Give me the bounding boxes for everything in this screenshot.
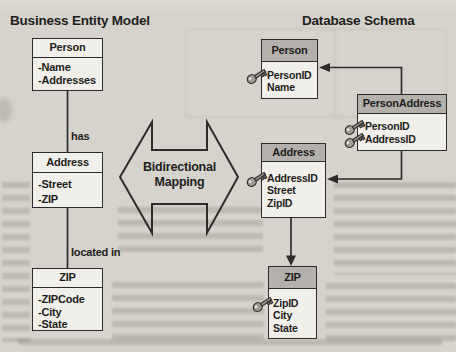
bidirectional-mapping-label: Bidirectional Mapping xyxy=(122,160,237,190)
entity-field: -City xyxy=(38,306,102,319)
table-row: City xyxy=(273,309,316,321)
key-icon xyxy=(244,65,270,85)
diagram-canvas: Business Entity Model Database Schema Bi… xyxy=(0,0,456,352)
arrowhead-to-address xyxy=(327,175,338,184)
entity-field: -Name xyxy=(38,61,102,74)
table-address-header: Address xyxy=(262,144,325,162)
column-name: ZipID xyxy=(267,197,292,209)
bidirectional-mapping-line1: Bidirectional xyxy=(122,160,237,175)
entity-address-header: Address xyxy=(33,153,102,173)
table-zip-header: ZIP xyxy=(269,267,316,289)
table-zip: ZIP ZipID City State xyxy=(268,266,317,339)
table-personaddress-header: PersonAddress xyxy=(358,95,446,114)
connector-personaddress-address xyxy=(338,150,402,179)
table-row: PersonID xyxy=(365,120,446,133)
column-name: AddressID xyxy=(267,172,318,184)
key-icon xyxy=(250,293,276,313)
relation-label-has: has xyxy=(71,130,89,142)
entity-person: Person -Name -Addresses xyxy=(32,38,103,91)
table-row: AddressID xyxy=(365,133,446,146)
background-bleed-text xyxy=(2,182,30,342)
column-name: State xyxy=(273,322,298,334)
bidirectional-mapping-line2: Mapping xyxy=(122,175,237,190)
background-bleed-text xyxy=(18,339,442,349)
table-row: Street xyxy=(267,184,325,196)
column-name: Street xyxy=(267,184,296,196)
business-entity-model-title: Business Entity Model xyxy=(10,13,150,28)
background-bleed-smudge xyxy=(0,98,12,122)
column-name: ZipID xyxy=(273,297,298,309)
table-row: Name xyxy=(267,81,317,93)
entity-field: -ZIPCode xyxy=(38,293,102,306)
background-bleed-text xyxy=(112,282,264,344)
table-row: PersonID xyxy=(267,69,317,81)
key-icon xyxy=(342,129,368,149)
entity-field: -Addresses xyxy=(38,74,102,87)
table-row: State xyxy=(273,322,316,334)
background-bleed-text xyxy=(334,182,456,275)
table-address: Address AddressID Street ZipID xyxy=(261,143,326,218)
column-name: Name xyxy=(267,81,295,93)
table-person-header: Person xyxy=(262,40,317,62)
arrowhead-to-zip xyxy=(286,256,296,267)
table-person: Person PersonID Name xyxy=(261,39,318,99)
table-row: AddressID xyxy=(267,172,325,184)
table-row: ZipID xyxy=(273,297,316,309)
column-name: PersonID xyxy=(267,69,312,81)
column-name: PersonID xyxy=(365,120,410,132)
entity-field: -Street xyxy=(38,177,102,192)
relation-label-located-in: located in xyxy=(71,246,120,258)
entity-person-header: Person xyxy=(33,39,102,58)
table-personaddress: PersonAddress PersonID xyxy=(357,94,447,151)
entity-address: Address -Street -ZIP xyxy=(32,152,103,208)
entity-zip: ZIP -ZIPCode -City -State xyxy=(32,268,103,331)
database-schema-title: Database Schema xyxy=(302,13,415,28)
column-name: AddressID xyxy=(365,133,416,145)
background-bleed-text xyxy=(326,283,456,345)
key-icon xyxy=(244,168,270,188)
entity-field: -ZIP xyxy=(38,192,102,207)
entity-zip-header: ZIP xyxy=(33,269,102,288)
table-row: ZipID xyxy=(267,197,325,209)
connector-personaddress-person xyxy=(330,68,402,95)
background-bleed-text xyxy=(118,207,263,259)
entity-field: -State xyxy=(38,318,102,331)
arrowhead-to-person xyxy=(319,63,330,72)
